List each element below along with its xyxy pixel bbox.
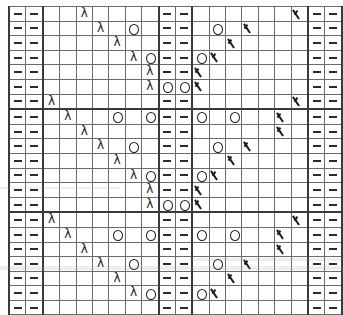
chart-cell-blank[interactable] [258, 197, 274, 212]
chart-cell-blank[interactable] [142, 36, 159, 51]
chart-cell-blank[interactable] [242, 183, 258, 198]
chart-cell-blank[interactable] [109, 183, 125, 198]
chart-cell-blank[interactable] [275, 300, 291, 315]
chart-cell-blank[interactable] [43, 197, 60, 212]
chart-cell-blank[interactable] [109, 257, 125, 272]
chart-cell-blank[interactable] [209, 65, 225, 80]
chart-cell-blank[interactable] [60, 50, 76, 65]
chart-cell-blank[interactable] [76, 36, 92, 51]
chart-cell-blank[interactable] [109, 124, 125, 139]
chart-cell-blank[interactable] [258, 212, 274, 227]
chart-cell-blank[interactable] [242, 153, 258, 168]
chart-cell-blank[interactable] [275, 168, 291, 183]
chart-cell-blank[interactable] [209, 79, 225, 94]
chart-cell-blank[interactable] [76, 227, 92, 242]
chart-cell-blank[interactable] [275, 7, 291, 22]
chart-cell-dash[interactable] [159, 124, 176, 139]
chart-cell-dash[interactable] [308, 300, 325, 315]
chart-cell-blank[interactable] [275, 21, 291, 36]
chart-cell-blank[interactable] [258, 153, 274, 168]
chart-cell-dash[interactable] [308, 183, 325, 198]
chart-cell-blank[interactable] [291, 168, 308, 183]
chart-cell-blank[interactable] [226, 21, 242, 36]
chart-cell-blank[interactable] [291, 109, 308, 124]
chart-cell-dash[interactable] [308, 94, 325, 109]
chart-cell-yo[interactable] [192, 109, 209, 124]
chart-cell-blank[interactable] [60, 79, 76, 94]
chart-cell-blank[interactable] [125, 109, 141, 124]
chart-cell-k2t[interactable] [226, 271, 242, 286]
chart-cell-dash[interactable] [325, 286, 342, 301]
chart-cell-blank[interactable] [258, 36, 274, 51]
chart-cell-dash[interactable] [325, 300, 342, 315]
chart-cell-blank[interactable] [291, 21, 308, 36]
chart-cell-dash[interactable] [26, 139, 43, 154]
chart-cell-dash[interactable] [26, 242, 43, 257]
chart-cell-yo[interactable] [175, 79, 192, 94]
chart-cell-dash[interactable] [325, 168, 342, 183]
chart-cell-lam[interactable] [92, 21, 108, 36]
chart-cell-blank[interactable] [109, 242, 125, 257]
chart-cell-blank[interactable] [226, 183, 242, 198]
chart-cell-blank[interactable] [109, 65, 125, 80]
chart-cell-blank[interactable] [275, 197, 291, 212]
chart-cell-dash[interactable] [26, 227, 43, 242]
chart-cell-dash[interactable] [175, 286, 192, 301]
chart-cell-blank[interactable] [258, 79, 274, 94]
chart-cell-blank[interactable] [291, 65, 308, 80]
chart-cell-blank[interactable] [226, 212, 242, 227]
chart-cell-blank[interactable] [291, 197, 308, 212]
chart-cell-lam[interactable] [125, 50, 141, 65]
chart-cell-blank[interactable] [76, 168, 92, 183]
chart-cell-blank[interactable] [209, 300, 225, 315]
chart-cell-blank[interactable] [209, 36, 225, 51]
chart-cell-dash[interactable] [159, 36, 176, 51]
chart-cell-dash[interactable] [26, 94, 43, 109]
chart-cell-dash[interactable] [308, 109, 325, 124]
chart-cell-blank[interactable] [226, 168, 242, 183]
chart-cell-dash[interactable] [9, 109, 26, 124]
chart-cell-blank[interactable] [109, 197, 125, 212]
chart-cell-blank[interactable] [125, 79, 141, 94]
chart-cell-dash[interactable] [26, 212, 43, 227]
chart-cell-yo[interactable] [175, 197, 192, 212]
chart-cell-dash[interactable] [159, 257, 176, 272]
chart-cell-lam[interactable] [142, 183, 159, 198]
chart-cell-dash[interactable] [26, 21, 43, 36]
chart-cell-blank[interactable] [60, 36, 76, 51]
chart-cell-dash[interactable] [308, 257, 325, 272]
chart-cell-blank[interactable] [60, 21, 76, 36]
chart-cell-dash[interactable] [175, 153, 192, 168]
chart-cell-blank[interactable] [291, 79, 308, 94]
chart-cell-dash[interactable] [175, 139, 192, 154]
chart-cell-blank[interactable] [142, 124, 159, 139]
chart-cell-blank[interactable] [275, 271, 291, 286]
chart-cell-dash[interactable] [175, 168, 192, 183]
chart-cell-lam[interactable] [43, 212, 60, 227]
chart-cell-dash[interactable] [325, 242, 342, 257]
chart-cell-blank[interactable] [192, 124, 209, 139]
chart-cell-blank[interactable] [92, 50, 108, 65]
chart-cell-blank[interactable] [125, 197, 141, 212]
chart-cell-dash[interactable] [26, 300, 43, 315]
chart-cell-dash[interactable] [9, 227, 26, 242]
chart-cell-blank[interactable] [226, 139, 242, 154]
chart-cell-dash[interactable] [26, 50, 43, 65]
chart-cell-blank[interactable] [192, 242, 209, 257]
chart-cell-blank[interactable] [209, 271, 225, 286]
chart-cell-dash[interactable] [325, 271, 342, 286]
chart-cell-blank[interactable] [92, 183, 108, 198]
chart-cell-blank[interactable] [291, 139, 308, 154]
chart-cell-yo[interactable] [142, 227, 159, 242]
chart-cell-blank[interactable] [242, 300, 258, 315]
chart-cell-blank[interactable] [43, 7, 60, 22]
chart-cell-blank[interactable] [258, 50, 274, 65]
chart-cell-dash[interactable] [308, 197, 325, 212]
chart-cell-blank[interactable] [43, 227, 60, 242]
chart-cell-blank[interactable] [76, 21, 92, 36]
chart-cell-blank[interactable] [226, 7, 242, 22]
chart-cell-blank[interactable] [209, 197, 225, 212]
chart-cell-k2t[interactable] [192, 197, 209, 212]
chart-cell-dash[interactable] [308, 79, 325, 94]
chart-cell-dash[interactable] [9, 94, 26, 109]
